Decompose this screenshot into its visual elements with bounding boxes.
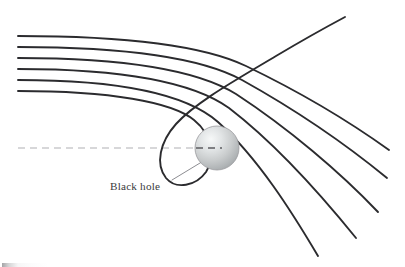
black-hole-leader-line bbox=[172, 160, 205, 180]
light-ray-4 bbox=[18, 69, 356, 238]
diagram-canvas: Black hole bbox=[0, 0, 405, 267]
black-hole-diagram: Black hole bbox=[0, 0, 405, 267]
black-hole-label: Black hole bbox=[110, 180, 160, 192]
